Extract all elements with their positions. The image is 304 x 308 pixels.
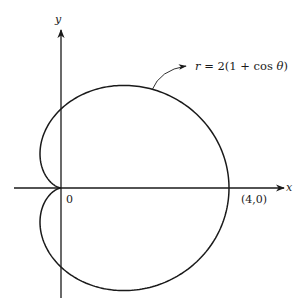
point-label: (4,0) [241,193,267,206]
x-axis-label: x [286,181,293,194]
origin-label: 0 [66,193,73,206]
curve-equation-label: r = 2(1 + cos θ) [195,59,288,73]
cardioid-diagram: r = 2(1 + cos θ) y x 0 (4,0) [0,0,304,308]
y-axis-label: y [54,13,62,26]
label-leader-arrow [152,66,186,90]
